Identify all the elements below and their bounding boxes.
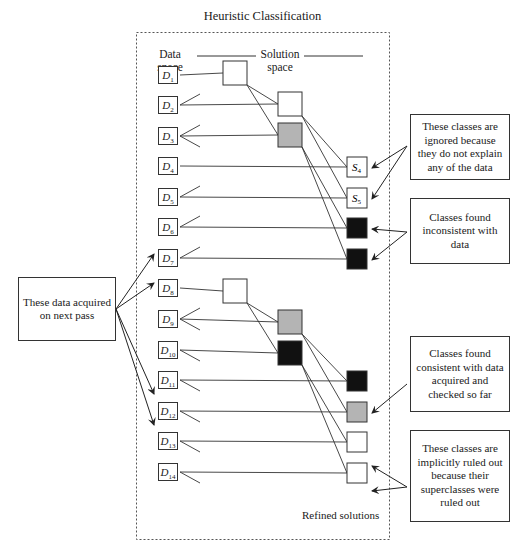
data-node-d11: D11 — [158, 371, 178, 389]
solution-node-w14 — [347, 463, 367, 483]
solution-node-a — [223, 61, 247, 85]
solution-node-g12 — [347, 402, 367, 422]
solution-node-w13 — [347, 432, 367, 452]
note-next-pass: These data acquired on next pass — [18, 277, 116, 341]
note-ignored: These classes are ignored because they d… — [410, 114, 510, 180]
solution-node-b — [278, 92, 302, 116]
solution-space-label-line1: Solution — [258, 48, 302, 61]
solution-node-g — [278, 341, 302, 365]
data-node-d10: D10 — [158, 341, 178, 359]
data-node-d7: D7 — [158, 249, 178, 267]
data-node-d14: D14 — [158, 463, 178, 481]
data-node-d8: D8 — [158, 279, 178, 297]
data-node-d3: D3 — [158, 127, 178, 145]
data-space-label-line1: Data — [153, 48, 187, 61]
data-node-d6: D6 — [158, 218, 178, 236]
solution-node-c — [278, 123, 302, 147]
solution-node-k7 — [347, 249, 367, 269]
data-node-d13: D13 — [158, 432, 178, 450]
data-node-d9: D9 — [158, 310, 178, 328]
connection-lines — [180, 73, 347, 483]
solution-node-e — [223, 279, 247, 303]
note-implicit: These classes are implicitly ruled out b… — [410, 430, 510, 522]
solution-nodes: S4S5 — [223, 61, 367, 483]
solution-space-label: Solution space — [258, 48, 302, 74]
note-inconsistent: Classes found inconsistent with data — [410, 198, 510, 264]
refined-solutions-label: Refined solutions — [302, 509, 379, 521]
solution-node-k6 — [347, 218, 367, 238]
data-node-d1: D1 — [158, 66, 178, 84]
data-node-d4: D4 — [158, 157, 178, 175]
data-node-d12: D12 — [158, 402, 178, 420]
note-consistent: Classes found consistent with data acqui… — [410, 336, 510, 412]
heuristic-classification-diagram: Heuristic Classification — [0, 0, 525, 549]
solution-node-k11 — [347, 371, 367, 391]
solution-node-f — [278, 310, 302, 334]
solution-space-label-line2: space — [258, 61, 302, 74]
data-node-d2: D2 — [158, 96, 178, 114]
data-node-d5: D5 — [158, 188, 178, 206]
